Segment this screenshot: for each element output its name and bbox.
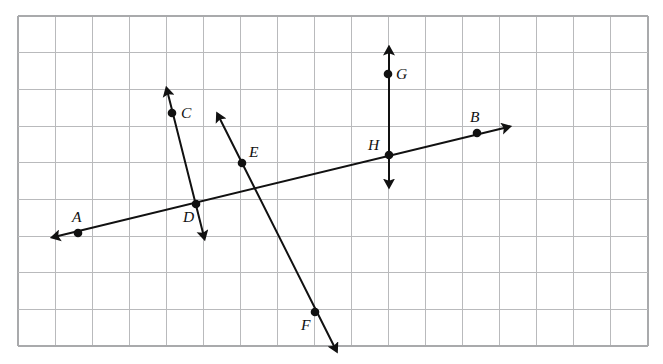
point-label-d: D: [182, 208, 194, 225]
point-c: [168, 109, 177, 118]
point-label-g: G: [396, 65, 407, 82]
geometry-figure: ABCDEFGH: [0, 0, 663, 364]
figure-canvas: ABCDEFGH: [0, 0, 663, 364]
point-d: [192, 200, 201, 209]
point-label-a: A: [71, 208, 82, 225]
point-g: [384, 70, 393, 79]
point-e: [238, 159, 247, 168]
point-b: [473, 129, 482, 138]
point-label-h: H: [367, 136, 380, 153]
point-a: [74, 229, 83, 238]
point-label-c: C: [181, 104, 192, 121]
grid-layer: [18, 16, 648, 346]
point-label-b: B: [470, 108, 480, 125]
point-h: [385, 151, 394, 160]
point-label-f: F: [300, 316, 311, 333]
line-ab: [58, 128, 504, 236]
point-f: [311, 308, 320, 317]
point-label-e: E: [248, 143, 259, 160]
